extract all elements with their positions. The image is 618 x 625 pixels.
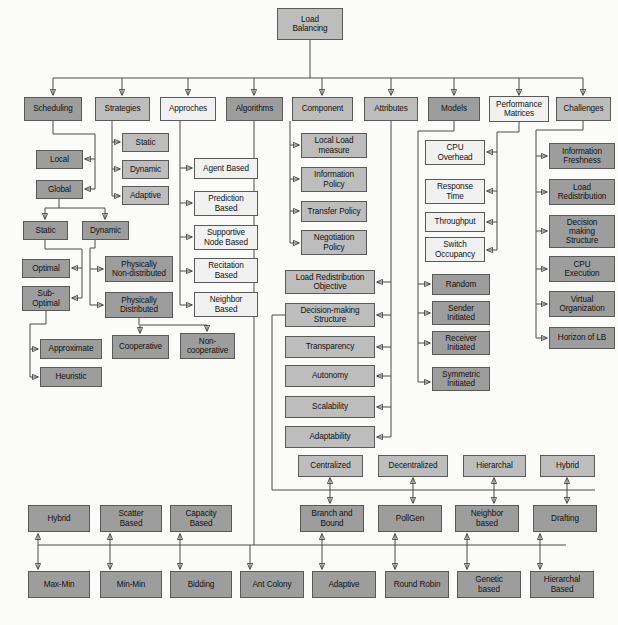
node-agent-based: Agent Based (194, 158, 258, 179)
node-cpu-execution: CPU Execution (549, 256, 615, 282)
node-challenges: Challenges (556, 97, 611, 121)
node-decentralized: Decentralized (378, 455, 448, 477)
node-adaptive: Adaptive (122, 186, 169, 205)
node-ant-colony: Ant Colony (240, 571, 304, 598)
node-receiver-initiated: Receiver Initiated (432, 331, 490, 355)
node-adaptability: Adaptability (285, 426, 375, 448)
node-local-load-measure: Local Load measure (301, 133, 367, 158)
node-prediction-based: Prediction Based (194, 191, 258, 216)
node-virtual-organization: Virtual Organization (549, 291, 615, 317)
node-performance-matrices: Performance Matrices (489, 96, 549, 122)
node-static: Static (122, 133, 169, 152)
node-cooperative: Cooperative (112, 335, 169, 359)
node-approximate: Approximate (40, 339, 102, 359)
node-genetic-based: Genetic based (457, 571, 521, 598)
node-neighbor-based: Neighbor Based (194, 292, 258, 317)
node-branch-and-bound: Branch and Bound (300, 505, 364, 532)
node-heuristic: Heuristic (40, 367, 102, 387)
node-bidding: Bidding (170, 571, 232, 598)
node-global: Global (36, 180, 83, 199)
node-hierarchal: Hierarchal (463, 455, 526, 477)
node-adaptive: Adaptive (312, 571, 376, 598)
node-hybrid: Hybrid (28, 505, 90, 532)
node-scalability: Scalability (285, 396, 375, 418)
node-component: Component (292, 97, 353, 121)
node-sender-initiated: Sender Initiated (432, 301, 490, 325)
node-scheduling: Scheduling (24, 97, 82, 121)
node-centralized: Centralized (298, 455, 363, 477)
node-dynamic: Dynamic (82, 221, 129, 240)
node-algorithms: Algorithms (226, 97, 283, 121)
node-max-min: Max-Min (28, 571, 90, 598)
node-autonomy: Autonomy (285, 365, 375, 387)
node-hierarchal-based: Hierarchal Based (530, 571, 594, 598)
node-random: Random (432, 274, 490, 295)
node-transparency: Transparency (285, 336, 375, 358)
node-hybrid: Hybrid (540, 455, 595, 477)
node-approches: Approches (160, 97, 216, 121)
node-sub-optimal: Sub- Optimal (22, 286, 70, 311)
node-local: Local (36, 150, 83, 169)
node-cpu-overhead: CPU Overhead (425, 140, 485, 165)
diagram-canvas: Load BalancingSchedulingStrategiesApproc… (0, 0, 618, 625)
node-symmetric-initiated: Symmetric Initiated (432, 367, 490, 391)
node-strategies: Strategies (95, 97, 150, 121)
node-recitation-based: Recitation Based (194, 258, 258, 283)
node-decision-making-structure: Decision-making Structure (285, 303, 375, 327)
node-non-cooperative: Non- cooperative (180, 333, 235, 359)
node-throughput: Throughput (425, 212, 485, 232)
node-dynamic: Dynamic (122, 160, 169, 179)
node-physically-non-distributed: Physically Non-distributed (105, 256, 173, 282)
node-pollgen: PollGen (378, 505, 442, 532)
node-transfer-policy: Transfer Policy (301, 201, 367, 222)
node-response-time: Response Time (425, 179, 485, 204)
node-physically-distributed: Physically Distributed (105, 292, 173, 318)
node-switch-occupancy: Switch Occupancy (425, 237, 485, 262)
node-scatter-based: Scatter Based (100, 505, 162, 532)
node-drafting: Drafting (533, 505, 597, 532)
node-decision-making-structure: Decision making Structure (549, 215, 615, 248)
node-load-redistribution: Load Redistribution (549, 179, 615, 205)
node-information-freshness: Information Freshness (549, 143, 615, 169)
node-models: Models (428, 97, 480, 121)
node-attributes: Attributes (364, 97, 418, 121)
node-negotiation-policy: Negotiation Policy (301, 230, 367, 255)
node-min-min: Min-Min (100, 571, 162, 598)
node-capacity-based: Capacity Based (170, 505, 232, 532)
node-load-balancing: Load Balancing (277, 8, 343, 40)
node-horizon-of-lb: Horizon of LB (549, 327, 615, 349)
node-supportive-node-based: Supportive Node Based (194, 225, 258, 250)
node-load-redistribution-objective: Load Redistribution Objective (285, 270, 375, 294)
node-round-robin: Round Robin (385, 571, 449, 598)
node-information-policy: Information Policy (301, 167, 367, 192)
node-neighbor-based: Neighbor based (455, 505, 519, 532)
node-static: Static (23, 221, 68, 240)
node-optimal: Optimal (22, 259, 70, 278)
